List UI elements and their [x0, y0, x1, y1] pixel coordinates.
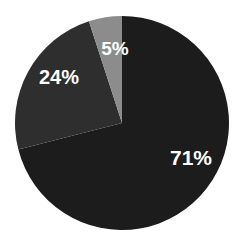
slice-label-71: 71%	[170, 146, 212, 169]
slice-label-24: 24%	[39, 66, 79, 88]
pie-chart: 71% 24% 5%	[0, 0, 245, 243]
slice-label-5: 5%	[101, 38, 129, 59]
